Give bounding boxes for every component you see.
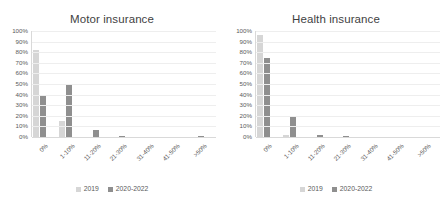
x-axis-category: 11-20%: [84, 139, 110, 179]
gridline: [32, 95, 216, 96]
plot-wrapper: 100%90%80%70%60%50%40%30%20%10%0% 0%1-10…: [0, 31, 224, 143]
axis-baseline: [256, 137, 440, 138]
legend-label: 2019: [84, 186, 99, 193]
legend-swatch-icon: [76, 187, 81, 192]
y-axis-tick-label: 10%: [240, 123, 252, 129]
gridline: [32, 84, 216, 85]
y-axis-tick-label: 50%: [240, 81, 252, 87]
legend: 20192020-2022: [0, 186, 224, 193]
x-axis-tick-label: 41-50%: [385, 142, 405, 162]
y-axis-tick-label: 70%: [16, 60, 28, 66]
x-axis-category: 21-30%: [334, 139, 360, 179]
x-axis-tick-label: >50%: [415, 142, 431, 158]
gridline: [256, 52, 440, 53]
legend-label: 2019: [308, 186, 323, 193]
y-axis-tick-label: 30%: [16, 102, 28, 108]
y-axis-tick-label: 100%: [12, 28, 28, 34]
y-axis-tick-label: 100%: [236, 28, 252, 34]
gridline: [256, 31, 440, 32]
x-axis-category: 31-40%: [361, 139, 387, 179]
y-axis-tick-label: 80%: [240, 49, 252, 55]
y-axis: 100%90%80%70%60%50%40%30%20%10%0%: [0, 31, 30, 137]
x-axis-tick-label: 11-20%: [82, 142, 102, 162]
chart-title: Health insurance: [224, 0, 448, 25]
bar-2019: [59, 121, 65, 137]
x-axis-tick-label: 41-50%: [161, 142, 181, 162]
y-axis-tick-label: 40%: [240, 91, 252, 97]
x-axis-category: 21-30%: [110, 139, 136, 179]
y-axis-tick-label: 60%: [16, 70, 28, 76]
gridline: [32, 73, 216, 74]
gridline: [256, 105, 440, 106]
y-axis-tick-label: 80%: [16, 49, 28, 55]
y-axis: 100%90%80%70%60%50%40%30%20%10%0%: [224, 31, 254, 137]
bar-2020-2022: [264, 58, 270, 138]
plot-area: [255, 31, 440, 137]
gridline: [32, 105, 216, 106]
x-axis-category: 31-40%: [137, 139, 163, 179]
legend-item[interactable]: 2020-2022: [108, 186, 149, 193]
gridline: [32, 42, 216, 43]
gridline: [32, 31, 216, 32]
x-axis-category: 11-20%: [308, 139, 334, 179]
x-axis-tick-label: 31-40%: [135, 142, 155, 162]
gridline: [256, 84, 440, 85]
plot-wrapper: 100%90%80%70%60%50%40%30%20%10%0% 0%1-10…: [224, 31, 448, 143]
x-axis-category: 1-10%: [57, 139, 83, 179]
x-axis-category: 41-50%: [387, 139, 413, 179]
gridline: [32, 63, 216, 64]
legend-item[interactable]: 2019: [300, 186, 323, 193]
y-axis-tick-label: 0%: [19, 134, 28, 140]
y-axis-tick-label: 60%: [240, 70, 252, 76]
gridline: [256, 116, 440, 117]
y-axis-tick-label: 20%: [16, 113, 28, 119]
legend-swatch-icon: [108, 187, 113, 192]
x-axis-category: 41-50%: [163, 139, 189, 179]
bar-2019: [257, 35, 263, 137]
x-axis-category: >50%: [190, 139, 216, 179]
gridline: [256, 126, 440, 127]
x-axis-tick-label: >50%: [191, 142, 207, 158]
gridline: [256, 73, 440, 74]
y-axis-tick-label: 20%: [240, 113, 252, 119]
x-axis-tick-label: 21-30%: [332, 142, 352, 162]
legend-item[interactable]: 2019: [76, 186, 99, 193]
legend-swatch-icon: [332, 187, 337, 192]
legend-label: 2020-2022: [340, 186, 373, 193]
axis-baseline: [32, 137, 216, 138]
y-axis-tick-label: 90%: [240, 38, 252, 44]
bar-2020-2022: [93, 130, 99, 137]
y-axis-tick-label: 70%: [240, 60, 252, 66]
legend-swatch-icon: [300, 187, 305, 192]
gridline: [32, 116, 216, 117]
chart-panel-health-insurance: Health insurance 100%90%80%70%60%50%40%3…: [224, 0, 448, 216]
x-axis-tick-label: 21-30%: [108, 142, 128, 162]
y-axis-tick-label: 90%: [16, 38, 28, 44]
y-axis-tick-label: 30%: [240, 102, 252, 108]
x-axis-tick-label: 0%: [38, 142, 49, 153]
chart-panel-motor-insurance: Motor insurance 100%90%80%70%60%50%40%30…: [0, 0, 224, 216]
x-axis-category: 0%: [255, 139, 281, 179]
y-axis-tick-label: 10%: [16, 123, 28, 129]
x-axis-tick-label: 1-10%: [282, 142, 300, 160]
gridline: [256, 63, 440, 64]
charts-row: Motor insurance 100%90%80%70%60%50%40%30…: [0, 0, 448, 216]
x-axis-category: 0%: [31, 139, 57, 179]
x-axis-labels: 0%1-10%11-20%21-30%31-40%41-50%>50%: [255, 139, 440, 179]
y-axis-tick-label: 40%: [16, 91, 28, 97]
legend-item[interactable]: 2020-2022: [332, 186, 373, 193]
legend-label: 2020-2022: [116, 186, 149, 193]
y-axis-tick-label: 0%: [243, 134, 252, 140]
x-axis-tick-label: 1-10%: [58, 142, 76, 160]
gridline: [32, 52, 216, 53]
gridline: [32, 126, 216, 127]
gridline: [256, 95, 440, 96]
y-axis-tick-label: 50%: [16, 81, 28, 87]
x-axis-tick-label: 0%: [262, 142, 273, 153]
x-axis-labels: 0%1-10%11-20%21-30%31-40%41-50%>50%: [31, 139, 216, 179]
bar-2020-2022: [66, 84, 72, 137]
gridline: [256, 42, 440, 43]
x-axis-tick-label: 31-40%: [359, 142, 379, 162]
legend: 20192020-2022: [224, 186, 448, 193]
x-axis-category: >50%: [414, 139, 440, 179]
